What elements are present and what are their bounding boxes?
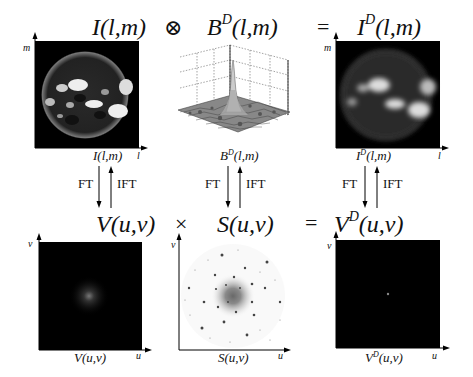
x-axis-label: u <box>278 350 283 361</box>
caption-base: V <box>74 350 82 365</box>
caption-args: (l,m) <box>234 148 259 163</box>
x-axis-label: u <box>136 350 141 361</box>
dirty-image-caption: ID(l,m) <box>356 148 391 164</box>
dirty-image-panel: m l <box>300 30 473 160</box>
ft-ift-arrows-left <box>96 166 116 210</box>
dirty-beam-caption: BD(l,m) <box>220 148 259 164</box>
sampling-caption: S(u,v) <box>218 350 249 366</box>
symbol-base: B <box>207 14 222 40</box>
symbol-args: (l,m) <box>232 14 278 40</box>
ft-label-middle: FT <box>205 176 220 192</box>
y-axis-label: v <box>28 238 32 249</box>
x-axis-label: l <box>137 150 140 161</box>
caption-base: B <box>220 148 228 163</box>
symbol-sup: D <box>349 209 359 224</box>
caption-base: V <box>365 350 373 365</box>
ft-label-right: FT <box>342 176 357 192</box>
visibility-caption: V(u,v) <box>74 350 106 366</box>
x-axis-label: l <box>438 150 441 161</box>
caption-args: (l,m) <box>366 148 391 163</box>
caption-args: (u,v) <box>82 350 106 365</box>
ift-label-middle: IFT <box>246 176 266 192</box>
caption-args: (l,m) <box>97 148 122 163</box>
dirty-beam-panel <box>170 40 295 140</box>
3d-surface-plot-icon <box>170 40 295 140</box>
convolution-operator: ⊗ <box>164 17 182 39</box>
x-axis-label: u <box>432 350 437 361</box>
y-axis-label: v <box>171 239 175 250</box>
symbol-sup: D <box>365 12 375 27</box>
ft-ift-arrows-right <box>362 166 382 210</box>
ft-label-left: FT <box>78 176 93 192</box>
caption-args: (u,v) <box>379 350 403 365</box>
sky-image-panel: m l <box>0 30 160 160</box>
y-axis-label: m <box>324 42 331 53</box>
dirty-visibility-caption: VD(u,v) <box>365 350 403 366</box>
ft-ift-arrows-middle <box>225 166 245 210</box>
y-axis-label: v <box>327 240 331 251</box>
equation-term-dirty-beam: BD(l,m) <box>207 15 278 39</box>
caption-args: (u,v) <box>225 350 249 365</box>
y-axis-label: m <box>23 42 30 53</box>
sky-image-caption: I(l,m) <box>93 148 122 164</box>
symbol-sup: D <box>222 12 232 27</box>
ift-label-left: IFT <box>117 176 137 192</box>
ift-label-right: IFT <box>383 176 403 192</box>
